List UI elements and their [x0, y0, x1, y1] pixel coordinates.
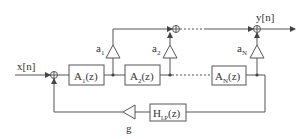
block-A2-label: A2(z): [130, 70, 154, 85]
block-AN-label: AN(z): [215, 70, 241, 85]
feedback-gain-label: g: [126, 122, 132, 134]
gain-label-a2: a2: [152, 42, 161, 57]
allpass-filter-diagram: x[n] y[n] g A1(z) A2(z) AN(z) HLP(z) a1 …: [0, 0, 308, 139]
gain-triangle-a2: [163, 45, 177, 58]
block-diagram: x[n] y[n] g A1(z) A2(z) AN(z) HLP(z) a1 …: [0, 0, 308, 139]
input-label: x[n]: [17, 60, 35, 72]
gain-triangle-a1: [106, 45, 120, 58]
gain-label-a1: a1: [96, 42, 105, 57]
gain-label-aN: aN: [237, 42, 247, 57]
feedback-gain-triangle: [123, 105, 135, 119]
output-label: y[n]: [256, 11, 274, 23]
gain-triangle-aN: [250, 45, 264, 58]
block-HLP-label: HLP(z): [153, 107, 181, 121]
block-A1-label: A1(z): [74, 70, 98, 85]
